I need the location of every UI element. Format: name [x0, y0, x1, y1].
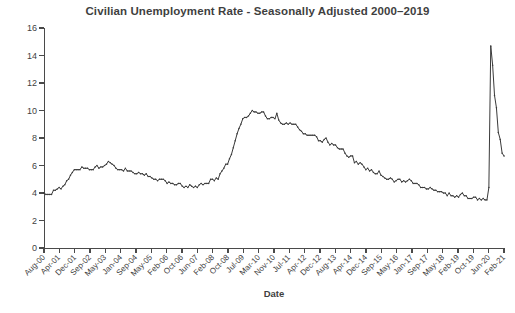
data-point [420, 187, 422, 189]
data-point [435, 190, 437, 192]
data-point [291, 124, 293, 126]
data-point [284, 124, 286, 126]
data-point [79, 169, 81, 171]
x-tick-mark [365, 248, 366, 253]
data-point [217, 179, 219, 181]
data-point [231, 154, 233, 156]
x-tick-mark [473, 248, 474, 253]
data-point [117, 169, 119, 171]
x-tick-mark [488, 248, 489, 253]
data-point [87, 168, 89, 170]
data-point [45, 194, 47, 196]
data-point [136, 173, 138, 175]
x-tick-mark [243, 248, 244, 253]
data-point [151, 177, 153, 179]
data-point [159, 179, 161, 181]
data-point [410, 180, 412, 182]
data-point [380, 174, 382, 176]
data-point [60, 188, 62, 190]
x-tick-mark [457, 248, 458, 253]
data-point [399, 179, 401, 181]
data-point [58, 187, 60, 189]
data-point [233, 147, 235, 149]
data-point [227, 163, 229, 165]
x-tick-mark [258, 248, 259, 253]
data-point [409, 179, 411, 181]
data-point [382, 176, 384, 178]
data-point [253, 111, 255, 113]
x-tick-mark [442, 248, 443, 253]
data-point [53, 190, 55, 192]
y-tick-label: 8 [32, 133, 37, 143]
data-point [89, 169, 91, 171]
data-point [373, 172, 375, 174]
x-tick-mark [135, 248, 136, 253]
data-point [464, 195, 466, 197]
data-point [401, 181, 403, 183]
data-point [134, 173, 136, 175]
y-tick-label: 16 [27, 23, 37, 33]
data-point [142, 173, 144, 175]
data-point [329, 144, 331, 146]
data-point [503, 155, 505, 157]
data-point [216, 177, 218, 179]
data-point [412, 183, 414, 185]
y-tick-label: 6 [32, 161, 37, 171]
chart-title: Civilian Unemployment Rate - Seasonally … [0, 5, 515, 17]
data-point [407, 180, 409, 182]
data-point [72, 172, 74, 174]
data-point [195, 185, 197, 187]
data-point [465, 195, 467, 197]
data-point [431, 188, 433, 190]
data-point [441, 191, 443, 193]
data-point [130, 170, 132, 172]
data-point [172, 183, 174, 185]
data-point [261, 111, 263, 113]
data-point [100, 166, 102, 168]
data-point [147, 176, 149, 178]
data-point [297, 126, 299, 128]
series-plot [44, 28, 504, 248]
data-point [191, 185, 193, 187]
data-point [170, 183, 172, 185]
data-point [104, 165, 106, 167]
data-point [111, 163, 113, 165]
data-point [331, 143, 333, 145]
data-point [344, 152, 346, 154]
data-point [499, 139, 501, 141]
data-point [352, 155, 354, 157]
data-point [446, 195, 448, 197]
data-point [178, 183, 180, 185]
data-point [128, 170, 130, 172]
x-tick-mark [304, 248, 305, 253]
data-point [365, 169, 367, 171]
data-point [418, 184, 420, 186]
data-point [267, 118, 269, 120]
data-point [202, 184, 204, 186]
data-point [166, 183, 168, 185]
data-point [92, 169, 94, 171]
data-point [359, 162, 361, 164]
data-point [153, 179, 155, 181]
data-point [176, 184, 178, 186]
data-point [390, 177, 392, 179]
data-point [236, 133, 238, 135]
data-point [479, 198, 481, 200]
data-point [138, 172, 140, 174]
data-point [445, 192, 447, 194]
data-point [429, 187, 431, 189]
data-point [64, 184, 66, 186]
data-point [471, 198, 473, 200]
data-point [337, 147, 339, 149]
data-point [501, 152, 503, 154]
data-point [333, 144, 335, 146]
data-point [375, 173, 377, 175]
data-point [469, 198, 471, 200]
data-point [282, 124, 284, 126]
data-point [123, 170, 125, 172]
data-point [310, 135, 312, 137]
data-point [301, 130, 303, 132]
data-point [229, 158, 231, 160]
data-point [240, 124, 242, 126]
data-point [316, 136, 318, 138]
